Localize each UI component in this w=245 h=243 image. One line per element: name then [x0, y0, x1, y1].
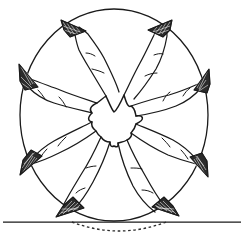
figure-canvas: Radial spoke diagram Circular outline co…: [0, 0, 245, 243]
radial-spoke-diagram: [0, 0, 245, 243]
